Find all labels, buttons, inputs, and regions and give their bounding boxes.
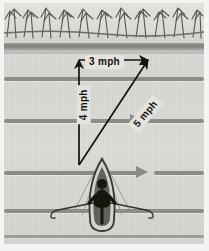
label-current-3mph: 3 mph [85, 55, 124, 69]
vector-triangle [4, 3, 204, 244]
figure-root: 3 mph 4 mph 5 mph [0, 0, 209, 251]
photo-plate: 3 mph 4 mph 5 mph [4, 3, 204, 244]
label-rowing-4mph: 4 mph [77, 85, 91, 124]
